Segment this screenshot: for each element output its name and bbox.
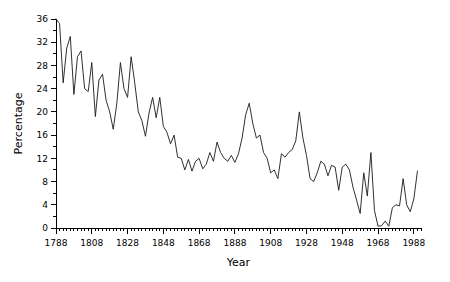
y-tick-label: 8 (42, 177, 48, 187)
x-tick-label: 1808 (80, 238, 103, 248)
x-tick-label: 1788 (45, 238, 68, 248)
x-tick-label: 1868 (188, 238, 211, 248)
y-tick-label: 32 (37, 37, 48, 47)
x-tick-label: 1948 (331, 238, 354, 248)
x-tick-label: 1928 (295, 238, 318, 248)
y-tick-label: 12 (37, 154, 48, 164)
x-tick-label: 1888 (223, 238, 246, 248)
data-series-line (56, 19, 417, 226)
y-tick-label: 24 (37, 84, 49, 94)
y-tick-label: 28 (37, 61, 49, 71)
x-tick-label: 1908 (259, 238, 282, 248)
x-tick-label: 1828 (116, 238, 139, 248)
y-tick-label: 16 (37, 130, 49, 140)
chart-figure: 04812162024283236 1788180818281848186818… (0, 0, 450, 282)
line-chart: 04812162024283236 1788180818281848186818… (0, 0, 450, 282)
x-tick-label: 1968 (367, 238, 390, 248)
x-tick-label: 1848 (152, 238, 175, 248)
y-tick-label: 4 (42, 200, 48, 210)
x-axis-title: Year (226, 256, 251, 269)
x-axis-tick-labels: 1788180818281848186818881908192819481968… (45, 238, 426, 248)
x-tick-label: 1988 (402, 238, 425, 248)
y-tick-label: 36 (37, 14, 49, 24)
y-axis-title: Percentage (12, 92, 25, 154)
y-tick-label: 0 (42, 223, 48, 233)
y-axis-tick-labels: 04812162024283236 (37, 14, 49, 233)
y-tick-label: 20 (37, 107, 49, 117)
